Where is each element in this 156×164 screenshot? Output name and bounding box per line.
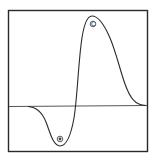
- marker-upper-label: C: [91, 20, 95, 27]
- waveform-curve: [28, 16, 146, 146]
- marker-lower: [57, 136, 63, 142]
- waveform-diagram: C: [0, 0, 156, 164]
- marker-lower-dot: [59, 138, 62, 141]
- marker-upper: C: [90, 20, 96, 27]
